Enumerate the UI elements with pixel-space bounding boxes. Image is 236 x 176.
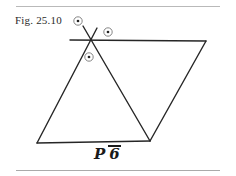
space-group-lattice-letter: P: [94, 145, 105, 163]
line-bottom-edge: [37, 141, 150, 143]
figure-page: Fig. 25.10 P6: [0, 0, 236, 176]
line-diagonal-edge: [83, 26, 150, 141]
space-group-rotation-order: 6: [109, 146, 119, 162]
two-fold-axis-upper-left-icon: [74, 17, 82, 25]
line-right-edge: [150, 41, 206, 141]
space-group-symbol: P6: [94, 146, 120, 162]
symmetry-axis-markers: [74, 17, 112, 61]
two-fold-axis-lower-left-icon: [85, 53, 93, 61]
bottom-divider-rule: [16, 170, 220, 171]
line-left-edge: [37, 28, 97, 143]
two-fold-axis-upper-right-icon: [104, 28, 112, 36]
lattice-outline-lines: [37, 26, 206, 143]
